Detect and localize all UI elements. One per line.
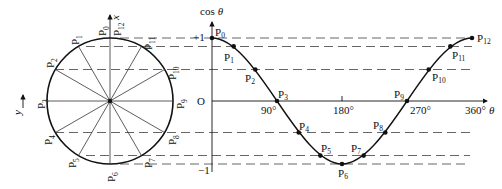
- curve-label-p5: P5: [321, 142, 331, 156]
- curve-label-p11: P11: [452, 49, 466, 63]
- circle-label-p0: P0: [96, 26, 111, 36]
- circle-label-p1: P1: [69, 35, 84, 45]
- tick-label-360: 360°: [465, 104, 486, 116]
- circle-label-p11: P11: [142, 36, 157, 50]
- curve-label-p9: P9: [394, 88, 404, 102]
- circle-label-p4: P4: [42, 135, 57, 145]
- origin-label: O: [197, 95, 205, 107]
- circle-label-p6: P6: [105, 172, 120, 182]
- curve-label-p3: P3: [278, 88, 288, 102]
- plus-one-label: +1: [193, 31, 205, 43]
- curve-label-p12: P12: [477, 32, 491, 46]
- circle-labels: x y P0 P12 P1 P2 P3 P4 P5 P6 P7 P8 P9 P1…: [11, 15, 189, 182]
- x-axis-label: x: [109, 15, 121, 21]
- curve-label-p0: P0: [215, 26, 225, 40]
- curve-label-p8: P8: [373, 119, 383, 133]
- circle-label-p8: P8: [166, 135, 181, 145]
- curve-label-p10: P10: [432, 71, 446, 85]
- minus-one-label: −1: [198, 164, 210, 176]
- cos-axis-label: cosθ: [200, 5, 224, 17]
- cosine-projection-diagram: x y P0 P12 P1 P2 P3 P4 P5 P6 P7 P8 P9 P1…: [0, 0, 502, 189]
- tick-label-180: 180°: [333, 104, 354, 116]
- circle-label-p5: P5: [66, 158, 81, 168]
- curve-label-p7: P7: [351, 142, 361, 156]
- theta-axis-label: θ: [489, 104, 495, 116]
- circle-label-p10: P10: [166, 66, 181, 80]
- circle-label-p7: P7: [142, 158, 157, 168]
- circle-label-p9: P9: [174, 99, 189, 109]
- y-axis-label: y: [11, 110, 23, 116]
- curve-label-p1: P1: [224, 51, 234, 65]
- curve-label-p4: P4: [299, 120, 309, 134]
- tick-label-270: 270°: [410, 104, 431, 116]
- tick-label-90: 90°: [261, 104, 276, 116]
- curve-label-p6: P6: [338, 167, 348, 181]
- circle-label-p12: P12: [111, 22, 126, 36]
- curve-label-p2: P2: [245, 72, 255, 86]
- graph-axes: cosθ +1 O −1 90° 180° 270° 360° θ: [193, 5, 495, 176]
